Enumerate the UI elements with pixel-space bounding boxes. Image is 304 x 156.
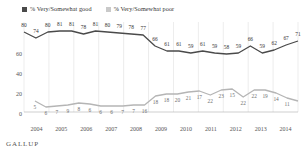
data-point-label: 61 (164, 42, 169, 47)
data-point-label: 16 (142, 109, 147, 114)
data-point-label: 81 (69, 22, 74, 27)
data-point-label: 67 (283, 36, 288, 41)
data-point-label: 23 (219, 94, 224, 99)
x-tick-label: 2014 (280, 126, 292, 132)
data-point-label: 7 (56, 110, 59, 115)
data-point-label: 59 (212, 44, 217, 49)
series-line-good (24, 31, 298, 54)
x-tick-label: 2008 (130, 126, 142, 132)
data-point-label: 15 (230, 93, 235, 98)
data-point-label: 79 (117, 24, 122, 29)
data-point-label: 14 (273, 97, 278, 102)
data-point-label: 78 (81, 25, 86, 30)
x-tick-label: 2004 (30, 126, 42, 132)
data-point-label: 59 (260, 44, 265, 49)
legend-label-good: % Very/Somewhat good (30, 6, 92, 12)
data-point-label: 6 (110, 110, 113, 115)
data-point-label: 61 (176, 42, 181, 47)
data-point-label: 66 (152, 37, 157, 42)
data-point-label: 18 (164, 98, 169, 103)
x-tick-label: 2005 (55, 126, 67, 132)
data-point-label: 66 (248, 37, 253, 42)
data-point-label: 21 (186, 96, 191, 101)
x-tick-label: 2012 (230, 126, 242, 132)
data-point-label: 19 (262, 94, 267, 99)
x-tick-label: 2006 (80, 126, 92, 132)
chart-legend: % Very/Somewhat good % Very/Somewhat poo… (22, 6, 174, 12)
data-point-label: 5 (34, 105, 37, 110)
legend-label-poor: % Very/Somewhat poor (114, 6, 175, 12)
data-point-label: 7 (132, 109, 135, 114)
data-point-label: 71 (295, 32, 300, 37)
data-point-label: 80 (21, 23, 26, 28)
data-point-label: 18 (153, 100, 158, 105)
x-tick-label: 2009 (155, 126, 167, 132)
data-point-label: 81 (93, 22, 98, 27)
x-tick-label: 2011 (205, 126, 217, 132)
data-point-label: 59 (188, 44, 193, 49)
data-point-label: 7 (121, 110, 124, 115)
x-axis: 2004200520062007200820092010201120122013… (0, 124, 304, 138)
data-point-label: 6 (88, 108, 91, 113)
data-point-label: 58 (224, 45, 229, 50)
data-point-label: 78 (129, 25, 134, 30)
data-point-label: 81 (57, 22, 62, 27)
data-point-label: 6 (45, 111, 48, 116)
x-tick-label: 2010 (180, 126, 192, 132)
square-swatch-light-icon (106, 7, 111, 12)
data-point-label: 59 (236, 44, 241, 49)
legend-item-poor: % Very/Somewhat poor (106, 6, 175, 12)
data-point-label: 80 (105, 23, 110, 28)
data-point-label: 11 (284, 102, 289, 107)
data-point-label: 22 (208, 99, 213, 104)
gallup-brand: GALLUP (6, 140, 39, 148)
data-point-label: 9 (66, 109, 69, 114)
data-point-label: 80 (45, 23, 50, 28)
data-point-label: 22 (251, 94, 256, 99)
data-point-label: 8 (77, 107, 80, 112)
gallup-line-chart: % Very/Somewhat good % Very/Somewhat poo… (0, 0, 304, 156)
x-tick-label: 2007 (105, 126, 117, 132)
square-swatch-dark-icon (22, 7, 27, 12)
data-point-label: 22 (240, 101, 245, 106)
data-point-label: 77 (140, 26, 145, 31)
data-point-label: 62 (271, 41, 276, 46)
data-point-label: 74 (33, 29, 38, 34)
data-point-label: 17 (197, 95, 202, 100)
data-point-label: 6 (99, 110, 102, 115)
legend-item-good: % Very/Somewhat good (22, 6, 92, 12)
x-tick-label: 2013 (255, 126, 267, 132)
data-point-label: 61 (200, 42, 205, 47)
data-point-label: 20 (175, 98, 180, 103)
